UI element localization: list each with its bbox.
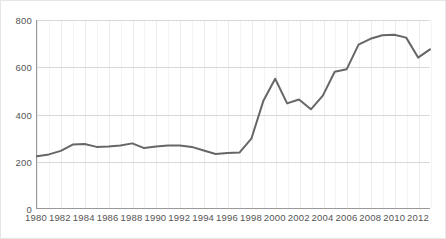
- x-axis-tick-label: 1998: [240, 212, 262, 223]
- y-axis-tick-label: 800: [16, 15, 32, 26]
- y-axis-tick-label: 200: [16, 156, 32, 167]
- x-axis-tick-label: 1992: [168, 212, 190, 223]
- x-axis-tick-label: 1996: [216, 212, 238, 223]
- x-axis-tick-label: 2004: [312, 212, 334, 223]
- x-axis-tick-label: 1994: [192, 212, 214, 223]
- x-axis-tick-label: 1988: [121, 212, 143, 223]
- x-axis-tick-label: 2010: [383, 212, 405, 223]
- x-axis-tick-label: 2006: [335, 212, 357, 223]
- x-axis-tick-label: 2008: [359, 212, 381, 223]
- x-axis-tick-label: 1982: [49, 212, 71, 223]
- x-axis-labels: 1980198219841986198819901992199419961998…: [36, 212, 430, 232]
- plot-area: 0200400600800: [36, 20, 430, 209]
- x-axis-tick-label: 1990: [144, 212, 166, 223]
- gridline-vertical: [431, 20, 432, 208]
- x-axis-tick-label: 2012: [407, 212, 429, 223]
- x-axis-tick-label: 1984: [73, 212, 95, 223]
- y-axis-tick-label: 600: [16, 62, 32, 73]
- x-axis-tick-label: 2002: [288, 212, 310, 223]
- x-axis-tick-label: 1986: [97, 212, 119, 223]
- line-chart: 0200400600800 19801982198419861988199019…: [0, 0, 446, 239]
- y-axis-tick-label: 400: [16, 109, 32, 120]
- data-line: [37, 20, 430, 208]
- x-axis-tick-label: 1980: [25, 212, 47, 223]
- x-axis-tick-label: 2000: [264, 212, 286, 223]
